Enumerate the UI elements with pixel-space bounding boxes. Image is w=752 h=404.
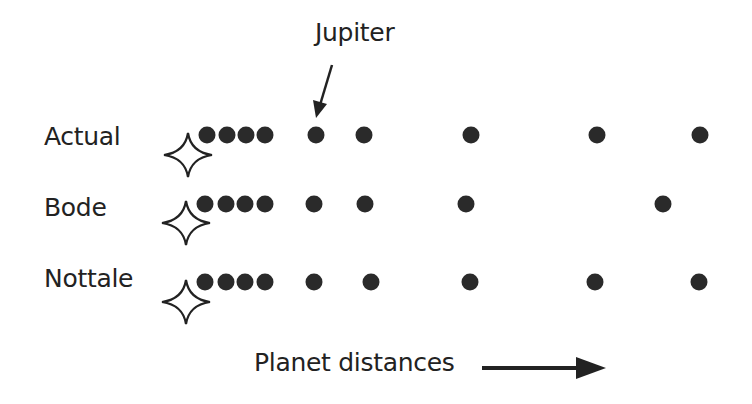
planet-dot xyxy=(306,274,323,291)
planet-dot xyxy=(306,196,323,213)
planet-dot xyxy=(587,274,604,291)
arrow-down-left-icon xyxy=(0,0,752,404)
planet-dot xyxy=(257,274,274,291)
planet-distances-label: Planet distances xyxy=(254,348,454,377)
planet-dot xyxy=(218,274,235,291)
planet-dot xyxy=(692,127,709,144)
planet-dot xyxy=(357,196,374,213)
planet-dot xyxy=(238,127,255,144)
planet-dot xyxy=(463,127,480,144)
jupiter-label: Jupiter xyxy=(315,18,394,47)
planet-dot xyxy=(257,127,274,144)
planet-dot xyxy=(308,127,325,144)
planet-dot xyxy=(197,196,214,213)
planet-dot xyxy=(458,196,475,213)
planet-dot xyxy=(219,127,236,144)
planet-dot xyxy=(237,274,254,291)
planet-dot xyxy=(237,196,254,213)
planet-dot xyxy=(691,274,708,291)
planet-dot xyxy=(257,196,274,213)
planet-dot xyxy=(199,127,216,144)
planet-dot xyxy=(363,274,380,291)
planet-dot xyxy=(462,274,479,291)
planet-dot xyxy=(589,127,606,144)
planet-dot xyxy=(356,127,373,144)
planet-dot xyxy=(197,274,214,291)
row-label-nottale: Nottale xyxy=(44,264,133,293)
row-label-actual: Actual xyxy=(44,122,121,151)
planet-dot xyxy=(218,196,235,213)
row-label-bode: Bode xyxy=(44,193,107,222)
planet-dot xyxy=(655,196,672,213)
